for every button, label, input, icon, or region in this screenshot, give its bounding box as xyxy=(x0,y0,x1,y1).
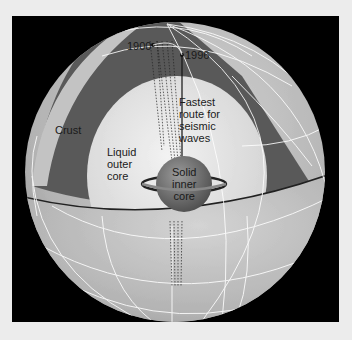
diagram-frame: 1900 1996 Crust Fastest route for seismi… xyxy=(12,16,339,322)
label-crust: Crust xyxy=(55,124,81,136)
label-liquid-outer-core: Liquid outer core xyxy=(107,146,136,182)
label-fastest-route: Fastest route for seismic waves xyxy=(179,96,220,144)
label-1996: 1996 xyxy=(185,49,209,61)
label-1900: 1900 xyxy=(127,40,151,52)
label-solid-inner-core: Solid inner core xyxy=(172,166,196,202)
